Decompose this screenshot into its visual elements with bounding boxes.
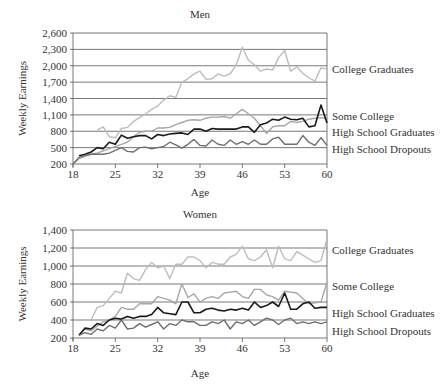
- x-axis-label: Age: [191, 367, 209, 379]
- series-label: College Graduates: [332, 63, 414, 75]
- y-tick-label: 600: [51, 296, 68, 308]
- x-tick-label: 60: [322, 168, 334, 180]
- series-label: High School Graduates: [332, 307, 435, 319]
- series-line: [73, 136, 327, 164]
- y-tick-label: 1,700: [42, 76, 67, 88]
- series-label: Some College: [332, 110, 394, 122]
- x-tick-label: 39: [195, 342, 207, 354]
- y-tick-label: 1,200: [42, 242, 67, 254]
- y-axis-label: Weekly Earnings: [16, 246, 28, 321]
- x-tick-label: 32: [152, 168, 163, 180]
- series-line: [79, 105, 327, 156]
- x-tick-label: 18: [68, 342, 80, 354]
- y-tick-label: 1,000: [42, 260, 67, 272]
- y-tick-label: 800: [51, 125, 68, 137]
- x-tick-label: 18: [68, 168, 80, 180]
- series-line: [91, 239, 327, 320]
- y-tick-label: 200: [51, 332, 68, 344]
- series-label: College Graduates: [332, 244, 414, 256]
- y-tick-label: 800: [51, 278, 68, 290]
- series-line: [97, 47, 327, 138]
- y-tick-label: 200: [51, 158, 68, 170]
- y-tick-label: 400: [51, 314, 68, 326]
- series-label: High School Dropouts: [332, 143, 431, 155]
- y-axis-label: Weekly Earnings: [16, 61, 28, 136]
- y-tick-label: 2,600: [42, 27, 67, 39]
- chart-title: Men: [190, 8, 211, 20]
- x-tick-label: 53: [279, 168, 291, 180]
- y-tick-label: 2,300: [42, 43, 67, 55]
- y-tick-label: 1,100: [42, 109, 67, 121]
- x-tick-label: 25: [110, 342, 122, 354]
- earnings-charts: Men2005008001,1001,4001,7002,0002,3002,6…: [0, 0, 440, 385]
- x-tick-label: 60: [322, 342, 334, 354]
- y-tick-label: 2,000: [42, 60, 67, 72]
- y-tick-label: 1,400: [42, 93, 67, 105]
- series-label: High School Graduates: [332, 126, 435, 138]
- x-tick-label: 25: [110, 168, 122, 180]
- series-label: High School Dropouts: [332, 325, 431, 337]
- y-tick-label: 500: [51, 142, 68, 154]
- x-tick-label: 46: [237, 168, 249, 180]
- x-tick-label: 46: [237, 342, 249, 354]
- y-tick-label: 1,400: [42, 224, 67, 236]
- chart-title: Women: [183, 208, 217, 220]
- x-axis-label: Age: [191, 186, 209, 198]
- series-label: Some College: [332, 280, 394, 292]
- x-tick-label: 39: [195, 168, 207, 180]
- x-tick-label: 53: [279, 342, 291, 354]
- series-line: [79, 318, 327, 335]
- x-tick-label: 32: [152, 342, 163, 354]
